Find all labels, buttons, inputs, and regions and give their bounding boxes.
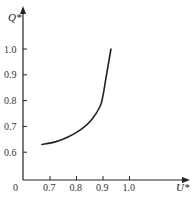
x-tick-label: 0.9 bbox=[96, 182, 109, 193]
y-tick-label: 0.9 bbox=[4, 69, 17, 80]
x-ticks: 0.70.80.91.0 bbox=[43, 176, 135, 193]
chart: 0.60.70.80.91.0 0.70.80.91.0 Q* U* 0 bbox=[0, 0, 194, 197]
y-tick-label: 0.7 bbox=[4, 121, 17, 132]
y-axis-label: Q* bbox=[8, 11, 22, 23]
data-curve bbox=[42, 49, 111, 144]
x-axis-label: U* bbox=[176, 181, 190, 193]
y-tick-label: 1.0 bbox=[4, 44, 17, 55]
y-tick-label: 0.6 bbox=[4, 147, 17, 158]
y-tick-label: 0.8 bbox=[4, 95, 17, 106]
x-tick-label: 1.0 bbox=[123, 182, 136, 193]
x-tick-label: 0.8 bbox=[70, 182, 83, 193]
origin-label: 0 bbox=[13, 182, 18, 193]
x-tick-label: 0.7 bbox=[43, 182, 56, 193]
axes bbox=[23, 10, 186, 180]
